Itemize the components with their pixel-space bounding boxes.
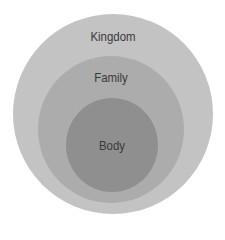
family-label: Family	[47, 70, 175, 85]
body-circle: Body	[66, 98, 158, 192]
body-label: Body	[72, 138, 153, 153]
kingdom-label: Kingdom	[25, 29, 201, 44]
